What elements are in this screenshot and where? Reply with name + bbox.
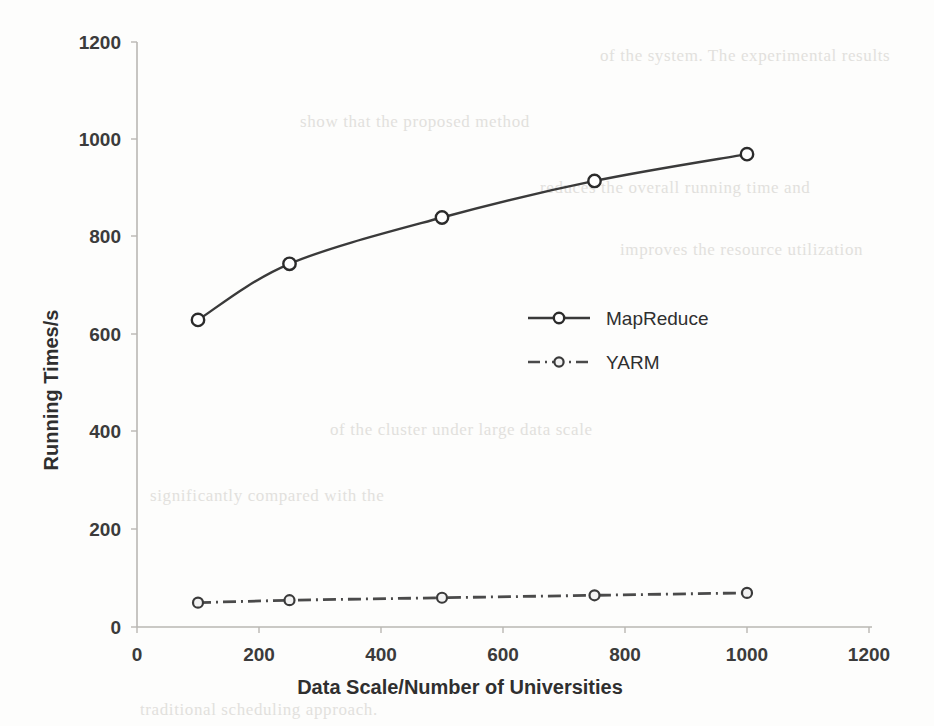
series-line-yarm	[198, 593, 747, 603]
data-point	[742, 588, 752, 598]
x-tick-label: 600	[487, 644, 519, 665]
x-tick-label: 1200	[848, 644, 890, 665]
x-axis-title: Data Scale/Number of Universities	[297, 676, 623, 698]
legend-label-yarm: YARM	[606, 352, 659, 373]
x-tick-label: 400	[365, 644, 397, 665]
x-tick-label: 1000	[726, 644, 768, 665]
x-tick-label: 200	[243, 644, 275, 665]
legend-marker-yarm	[554, 357, 563, 366]
x-tick-label: 800	[609, 644, 641, 665]
series-line-mapreduce	[198, 154, 747, 320]
y-axis-ticks	[131, 42, 137, 627]
legend-label-mapreduce: MapReduce	[606, 308, 708, 329]
data-point	[741, 148, 753, 160]
data-point	[285, 595, 295, 605]
chart-plot-area: 1200 1000 800 600 400 200 0 0 200 400 60…	[0, 0, 934, 726]
series-markers-yarm	[193, 588, 752, 608]
y-tick-label: 1000	[79, 129, 121, 150]
y-tick-label: 800	[89, 226, 121, 247]
chart-figure: of the system. The experimental results …	[0, 0, 934, 726]
data-point	[283, 258, 295, 270]
y-tick-label: 1200	[79, 32, 121, 53]
y-tick-label: 200	[89, 519, 121, 540]
chart-legend: MapReduce YARM	[528, 308, 708, 373]
data-point	[192, 314, 204, 326]
y-axis-title: Running Times/s	[40, 310, 62, 471]
data-point	[437, 593, 447, 603]
x-tick-label: 0	[132, 644, 143, 665]
y-tick-label: 600	[89, 324, 121, 345]
data-point	[588, 175, 600, 187]
data-point	[590, 590, 600, 600]
data-point	[436, 211, 448, 223]
y-tick-label: 0	[110, 617, 121, 638]
series-markers-mapreduce	[192, 148, 753, 326]
data-point	[193, 598, 203, 608]
y-tick-label: 400	[89, 421, 121, 442]
legend-marker-mapreduce	[554, 313, 564, 323]
x-axis-ticks	[137, 627, 869, 633]
